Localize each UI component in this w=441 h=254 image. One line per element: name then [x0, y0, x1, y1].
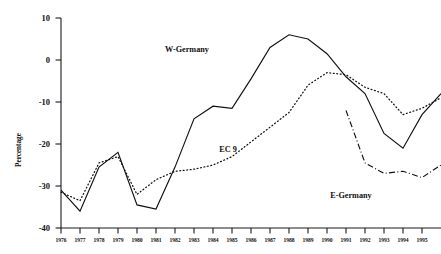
x-tick-label: 1986	[246, 237, 257, 243]
series-line-w-germany	[61, 35, 441, 211]
x-tick-label: 1990	[322, 237, 333, 243]
series-line-e-germany	[346, 110, 441, 177]
x-tick-label: 1983	[189, 237, 200, 243]
x-tick-label: 1980	[132, 237, 143, 243]
chart-container: 10 0 -10 -20 -30 -40 Percentage 19761977…	[0, 0, 441, 254]
x-tick-label: 1994	[398, 237, 409, 243]
x-tick-label: 1979	[113, 237, 124, 243]
x-tick-label: 1985	[227, 237, 238, 243]
x-tick-label: 1982	[170, 237, 181, 243]
x-tick-label: 1988	[284, 237, 295, 243]
x-tick-label: 1981	[151, 237, 162, 243]
y-tick-label: -30	[39, 181, 50, 191]
x-tick-label: 1976	[56, 237, 67, 243]
y-tick-label: -20	[39, 139, 50, 149]
x-tick-label: 1993	[379, 237, 390, 243]
y-tick-label: -10	[39, 97, 50, 107]
y-ticks	[56, 18, 62, 228]
x-tick-label: 1989	[303, 237, 314, 243]
y-tick-label: 0	[46, 55, 50, 65]
y-tick-label: 10	[42, 13, 51, 23]
series-annotations: W-GermanyEC 9E-Germany	[165, 45, 373, 200]
series-label: E-Germany	[330, 191, 372, 200]
x-tick-labels: 1976197719781979198019811982198319841985…	[56, 237, 428, 243]
x-tick-label: 1995	[417, 237, 428, 243]
x-tick-label: 1991	[341, 237, 352, 243]
y-tick-labels: 10 0 -10 -20 -30 -40	[39, 13, 50, 233]
x-tick-label: 1984	[208, 237, 219, 243]
series-line-ec9	[61, 73, 441, 201]
series-label: W-Germany	[165, 45, 210, 54]
x-ticks	[61, 228, 422, 234]
x-tick-label: 1987	[265, 237, 276, 243]
x-tick-label: 1977	[75, 237, 86, 243]
x-tick-label: 1992	[360, 237, 371, 243]
line-chart: 10 0 -10 -20 -30 -40 Percentage 19761977…	[0, 0, 441, 254]
y-tick-label: -40	[39, 223, 50, 233]
x-tick-label: 1978	[94, 237, 105, 243]
series-label: EC 9	[219, 145, 237, 154]
y-axis-title: Percentage	[15, 133, 23, 167]
